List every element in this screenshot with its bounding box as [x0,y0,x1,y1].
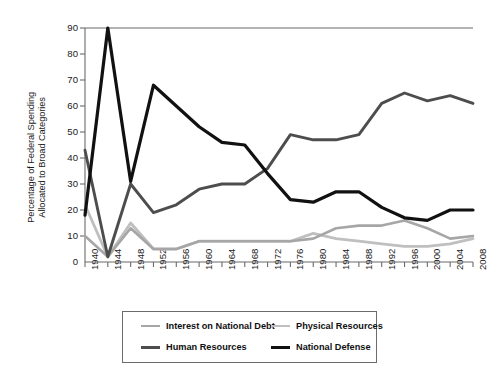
legend-label: Physical Resources [296,321,383,331]
legend-label: National Defense [296,342,371,352]
series-line-national-defense [85,28,473,220]
legend-item: National Defense [271,342,371,352]
legend-item: Interest on National Debt [141,321,275,331]
legend-swatch-icon [141,346,160,349]
legend-swatch-icon [271,346,290,349]
series-line-physical-resources [85,205,473,257]
legend-item: Physical Resources [271,321,383,331]
data-series-group [85,28,473,257]
legend-label: Human Resources [166,342,247,352]
chart-container: Percentage of Federal Spending Allocated… [0,0,499,388]
legend-item: Human Resources [141,342,247,352]
legend-swatch-icon [141,325,160,327]
legend-label: Interest on National Debt [166,321,275,331]
legend: Interest on National DebtPhysical Resour… [122,311,377,363]
series-line-interest-on-national-debt [85,220,473,256]
legend-swatch-icon [271,325,290,327]
series-line-human-resources [85,93,473,257]
